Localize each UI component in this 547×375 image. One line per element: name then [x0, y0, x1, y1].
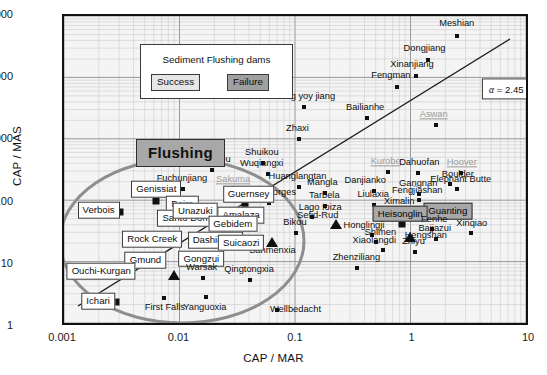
dam-box-label-ouchi-kurgan: Ouchi-Kurgan	[67, 263, 136, 280]
dam-box-label-gebidem: Gebidem	[208, 215, 257, 232]
data-point-marker	[469, 231, 473, 235]
data-point-marker	[417, 198, 421, 202]
dam-label-bailianhe: Bailianhe	[346, 103, 384, 112]
data-point-marker	[355, 266, 359, 270]
dam-label-zhenziliang: Zhenziliang	[333, 253, 381, 262]
x-tick-0.01: 0.01	[168, 331, 189, 343]
dam-label-first-falls: First Falls	[145, 304, 185, 313]
data-point-marker	[302, 105, 306, 109]
dam-label-hoover: Hoover	[447, 158, 477, 167]
x-tick-0.1: 0.1	[287, 331, 302, 343]
x-tick-10: 10	[522, 331, 534, 343]
dam-label-wellbedacht: Wellbedacht	[270, 305, 321, 314]
data-point-marker	[434, 123, 438, 127]
data-point-marker	[395, 85, 399, 89]
dam-label-shuikou: Shuikou	[245, 148, 279, 157]
y-tick-1: 1	[7, 319, 13, 331]
dam-label-elephant-butte: Elephant Butte	[430, 175, 491, 184]
data-point-marker	[162, 296, 166, 300]
dam-label-qingtongxia: Qingtongxia	[224, 266, 274, 275]
dam-label-danjianko: Danjianko	[345, 176, 386, 185]
dam-label-zhiyu: Zhiyu	[402, 237, 425, 246]
data-point-marker	[414, 74, 418, 78]
y-tick-10000: 10000	[0, 70, 13, 82]
dam-box-label-guernsey: Guernsey	[223, 186, 275, 203]
dam-label-fengman: Fengman	[371, 71, 410, 80]
legend: Sediment Flushing dams Success Failure	[140, 44, 293, 99]
y-tick-10: 10	[1, 257, 13, 269]
data-point-marker	[455, 34, 459, 38]
dam-label-dahuofan: Dahuofan	[399, 158, 439, 167]
dam-label-meshian: Meshian	[439, 20, 474, 29]
dam-box-label-suicaozi: Suicaozi	[218, 234, 264, 251]
dam-label-mangla: Mangla	[307, 178, 338, 187]
dam-box-label-verbois: Verbois	[78, 202, 120, 219]
data-point-marker	[386, 170, 390, 174]
dam-box-label-heisonglin: Heisonglin	[373, 205, 428, 222]
y-tick-100000: 100000	[0, 8, 13, 20]
dam-label-xinqiao: Xinqiao	[456, 219, 487, 228]
dam-label-xiaolangdi: Xiaolangdi	[353, 237, 396, 246]
data-point-marker	[416, 171, 420, 175]
x-tick-0.001: 0.001	[48, 331, 76, 343]
flushing-region-tag: Flushing	[136, 139, 225, 167]
legend-entry-success: Success	[151, 74, 200, 91]
data-point-marker	[204, 295, 208, 299]
dam-box-label-rock-creek: Rock Creek	[122, 231, 182, 248]
plot-area: MeshianDongjiangXinanjiangFengmanShang y…	[62, 14, 528, 325]
data-point-marker	[210, 168, 214, 172]
legend-title: Sediment Flushing dams	[141, 54, 292, 65]
data-point-marker	[455, 187, 459, 191]
data-point-marker	[181, 187, 185, 191]
dam-label-wuqiangxi: Wuqiangxi	[240, 159, 283, 168]
dam-label-bajiazui: Bajiazui	[418, 224, 451, 233]
data-point-marker	[294, 231, 298, 235]
dam-label-aswan: Aswan	[420, 111, 448, 120]
dam-label-zhaxi: Zhaxi	[286, 124, 309, 133]
data-point-marker	[201, 276, 205, 280]
y-axis-label: CAP / MAS	[11, 101, 23, 211]
trendline-equation-annotation: α = 2.45 × 103	[482, 78, 528, 99]
dam-label-warsak: Warsak	[186, 263, 217, 272]
x-axis-label: CAP / MAR	[0, 352, 547, 364]
sediment-flushing-scatter-figure: MeshianDongjiangXinanjiangFengmanShang y…	[0, 0, 547, 375]
data-point-marker	[381, 248, 385, 252]
dam-label-xinanjiang: Xinanjiang	[390, 60, 433, 69]
data-point-marker	[297, 185, 301, 189]
dam-label-sakuma: Sakuma	[216, 175, 250, 184]
data-point-marker	[365, 116, 369, 120]
data-point-marker	[248, 278, 252, 282]
dam-label-tarbela: Tarbela	[309, 191, 340, 200]
data-point-marker	[297, 137, 301, 141]
dam-label-bikou: Bikou	[283, 219, 306, 228]
data-point-marker	[168, 270, 180, 280]
data-point-marker	[413, 250, 417, 254]
dam-label-fengjiashan: Fengjiashan	[392, 186, 443, 195]
data-point-marker	[153, 198, 160, 205]
dam-label-dongjiang: Dongjiang	[404, 45, 446, 54]
legend-entry-failure: Failure	[227, 74, 269, 91]
x-tick-1: 1	[408, 331, 414, 343]
dam-box-label-ichari: Ichari	[81, 293, 114, 310]
dam-label-yanguoxia: Yanguoxia	[183, 304, 226, 313]
dam-label-kurobe: Kurobe	[371, 157, 401, 166]
